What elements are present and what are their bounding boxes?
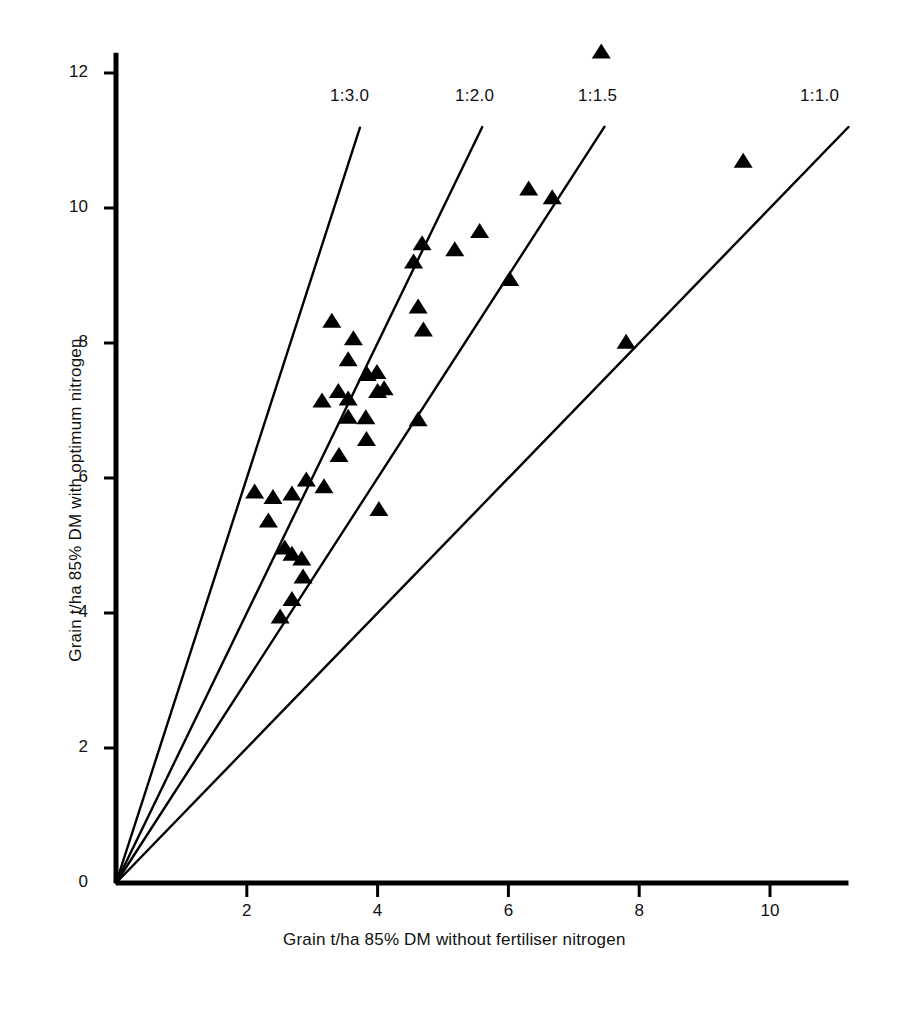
data-point-triangle <box>500 271 519 286</box>
data-point-triangle <box>263 489 282 504</box>
data-point-triangle <box>282 486 301 501</box>
data-point-triangle <box>519 180 538 195</box>
data-point-triangle <box>356 409 375 424</box>
reference-line <box>116 128 360 883</box>
y-tick-label: 2 <box>58 737 88 757</box>
reference-lines <box>116 127 848 883</box>
y-tick-label: 12 <box>58 62 88 82</box>
data-point-triangle <box>271 608 290 623</box>
data-markers <box>245 43 753 623</box>
reference-line <box>116 127 605 883</box>
data-point-triangle <box>339 351 358 366</box>
x-tick-label: 10 <box>755 901 785 921</box>
data-point-triangle <box>357 431 376 446</box>
x-tick-label: 6 <box>493 901 523 921</box>
chart-figure: 246810024681012 1:3.01:2.01:1.51:1.0 Gra… <box>0 0 900 1014</box>
ratio-label: 1:1.5 <box>578 86 617 106</box>
ratio-label: 1:3.0 <box>330 86 369 106</box>
data-point-triangle <box>314 478 333 493</box>
data-point-triangle <box>330 447 349 462</box>
reference-line <box>116 127 848 883</box>
data-point-triangle <box>617 334 636 349</box>
data-point-triangle <box>322 313 341 328</box>
tick-marks <box>104 73 770 897</box>
data-point-triangle <box>294 569 313 584</box>
x-tick-label: 4 <box>363 901 393 921</box>
data-point-triangle <box>409 411 428 426</box>
data-point-triangle <box>409 299 428 314</box>
y-axis-title: Grain t/ha 85% DM with optimum nitrogen <box>66 290 86 710</box>
data-point-triangle <box>329 383 348 398</box>
data-point-triangle <box>369 501 388 516</box>
x-axis-title: Grain t/ha 85% DM without fertiliser nit… <box>283 930 626 950</box>
x-tick-label: 8 <box>624 901 654 921</box>
x-tick-label: 2 <box>232 901 262 921</box>
data-point-triangle <box>734 153 753 168</box>
axis-lines <box>116 53 848 883</box>
y-tick-label: 10 <box>58 197 88 217</box>
data-point-triangle <box>245 484 264 499</box>
y-tick-label: 0 <box>58 872 88 892</box>
data-point-triangle <box>414 322 433 337</box>
data-point-triangle <box>445 241 464 256</box>
ratio-label: 1:1.0 <box>800 86 839 106</box>
data-point-triangle <box>592 43 611 58</box>
data-point-triangle <box>259 513 278 528</box>
scatter-plot-svg <box>0 0 900 1014</box>
data-point-triangle <box>344 330 363 345</box>
data-point-triangle <box>313 392 332 407</box>
data-point-triangle <box>470 223 489 238</box>
reference-line <box>116 127 482 883</box>
ratio-label: 1:2.0 <box>455 86 494 106</box>
